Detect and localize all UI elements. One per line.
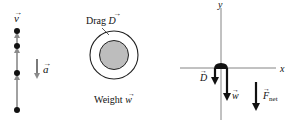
object-dot xyxy=(214,63,228,69)
free-body-diagram: y x D → w → Fnet → xyxy=(180,0,285,120)
position-dot xyxy=(14,28,20,34)
weight-vector-arrow-icon: → xyxy=(128,90,135,98)
drag-vector-arrow-icon: → xyxy=(113,9,121,18)
drag-label: Drag D xyxy=(86,15,117,26)
velocity-vector-arrow-icon: → xyxy=(14,8,22,17)
inner-object-circle xyxy=(100,41,129,70)
position-dot xyxy=(14,70,20,76)
motion-diagram: v → a → xyxy=(14,8,51,113)
physics-diagram: v → a → Drag D → Weight w → y x xyxy=(0,0,290,124)
fbd-weight-vector-arrow-icon: → xyxy=(232,86,239,94)
weight-label: Weight w xyxy=(94,94,132,105)
position-dot xyxy=(14,43,20,49)
drag-label-text: Drag xyxy=(86,15,109,26)
net-force-vector-arrow-icon: → xyxy=(263,85,270,93)
position-dot xyxy=(14,107,20,113)
fbd-drag-vector-arrow-icon: → xyxy=(200,67,207,75)
y-axis-label: y xyxy=(217,0,223,10)
x-axis-label: x xyxy=(279,63,285,74)
acceleration-vector-arrow-icon: → xyxy=(43,59,51,68)
weight-label-text: Weight xyxy=(94,94,125,105)
object-figure: Drag D → Weight w → xyxy=(86,9,138,105)
net-force-subscript: net xyxy=(269,95,278,103)
